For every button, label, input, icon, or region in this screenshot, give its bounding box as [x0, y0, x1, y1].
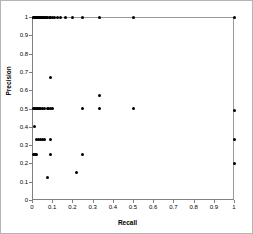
x-tick-label: 1 [222, 204, 246, 210]
y-tick-mark [29, 127, 32, 128]
data-point [64, 16, 67, 19]
data-point [51, 107, 54, 110]
data-point [49, 138, 52, 141]
y-axis-title-text: Precision [5, 86, 12, 96]
y-tick-mark [29, 163, 32, 164]
x-tick-mark [133, 200, 134, 203]
x-tick-mark [234, 200, 235, 203]
data-point [56, 16, 59, 19]
data-point [71, 16, 74, 19]
x-axis-title-text: Recall [118, 219, 137, 226]
data-point [132, 16, 135, 19]
x-tick-mark [32, 200, 33, 203]
y-tick-label: 0.4 [20, 124, 28, 130]
y-tick-label: 0.2 [20, 160, 28, 166]
x-tick-mark [113, 200, 114, 203]
y-axis-tick-labels: 00.10.20.30.40.50.60.70.80.91 [1, 1, 28, 234]
x-tick-mark [194, 200, 195, 203]
data-point [43, 138, 46, 141]
data-point [49, 153, 52, 156]
x-tick-mark [72, 200, 73, 203]
data-point [81, 16, 84, 19]
y-tick-label: 0.8 [20, 51, 28, 57]
y-tick-label: 0.9 [20, 32, 28, 38]
data-point [98, 16, 101, 19]
data-point [233, 109, 236, 112]
x-axis-tick-labels: 00.10.20.30.40.50.60.70.80.91 [1, 204, 253, 216]
data-point [98, 107, 101, 110]
data-point [98, 94, 101, 97]
data-point [33, 125, 36, 128]
y-tick-mark [29, 72, 32, 73]
data-point [81, 153, 84, 156]
x-tick-mark [214, 200, 215, 203]
y-tick-label: 0.5 [20, 106, 28, 112]
x-tick-mark [153, 200, 154, 203]
y-axis-title: Precision [5, 86, 12, 96]
x-tick-mark [173, 200, 174, 203]
x-tick-mark [93, 200, 94, 203]
y-tick-mark [29, 90, 32, 91]
data-point [233, 162, 236, 165]
scatter-plot: 00.10.20.30.40.50.60.70.80.91 00.10.20.3… [1, 1, 253, 234]
y-tick-mark [29, 35, 32, 36]
y-tick-label: 0.3 [20, 142, 28, 148]
y-tick-label: 0.6 [20, 87, 28, 93]
y-tick-mark [29, 182, 32, 183]
data-point [233, 138, 236, 141]
data-point [46, 176, 49, 179]
figure-container: 00.10.20.30.40.50.60.70.80.91 00.10.20.3… [0, 0, 253, 234]
data-point [81, 107, 84, 110]
x-axis-title: Recall [1, 219, 253, 226]
y-tick-label: 0.7 [20, 69, 28, 75]
y-tick-label: 1 [25, 14, 28, 20]
data-point [233, 16, 236, 19]
y-tick-label: 0.1 [20, 179, 28, 185]
data-point [35, 153, 38, 156]
y-tick-label: 0 [25, 197, 28, 203]
x-tick-mark [52, 200, 53, 203]
y-tick-mark [29, 145, 32, 146]
data-point [132, 107, 135, 110]
y-tick-mark [29, 54, 32, 55]
